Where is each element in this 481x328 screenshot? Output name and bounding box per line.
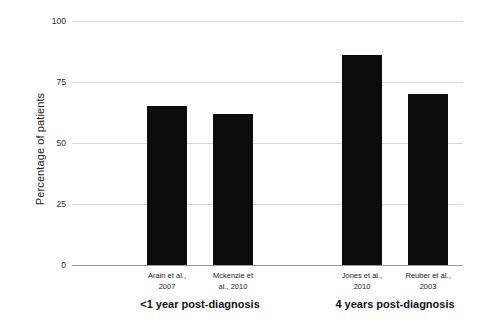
gridline-25: 25: [72, 204, 463, 205]
bar-mckenzie-2010: [213, 114, 253, 265]
x-tick-label-jones-line2: 2010: [324, 281, 400, 292]
group-label-4-years: 4 years post-diagnosis: [305, 298, 481, 310]
gridline-75: 75: [72, 82, 463, 83]
x-tick-label-arain: Arain et al., 2007: [129, 270, 205, 292]
bar-reuber-2003: [408, 94, 448, 265]
y-axis-title: Percentage of patients: [34, 29, 46, 269]
x-tick-label-jones: Jones et al., 2010: [324, 270, 400, 292]
x-tick-label-reuber-line2: 2003: [390, 281, 466, 292]
x-tick-label-mckenzie: Mckenzie et al., 2010: [195, 270, 271, 292]
y-tick-label-25: 25: [57, 199, 66, 209]
bar-arain-2007: [147, 106, 187, 265]
y-tick-label-0: 0: [61, 260, 66, 270]
gridline-50: 50: [72, 143, 463, 144]
bar-chart: Percentage of patients 100 75 50 25 0 Ar…: [0, 0, 481, 328]
x-tick-label-reuber-line1: Reuber et al.,: [390, 270, 466, 281]
plot-area: 100 75 50 25 0: [72, 21, 463, 265]
group-label-less-than-1-year: <1 year post-diagnosis: [110, 298, 290, 310]
x-tick-label-arain-line2: 2007: [129, 281, 205, 292]
x-tick-label-jones-line1: Jones et al.,: [324, 270, 400, 281]
x-tick-label-arain-line1: Arain et al.,: [129, 270, 205, 281]
x-tick-label-mckenzie-line2: al., 2010: [195, 281, 271, 292]
gridline-baseline-0: 0: [72, 265, 463, 266]
x-tick-label-reuber: Reuber et al., 2003: [390, 270, 466, 292]
y-tick-label-75: 75: [57, 77, 66, 87]
bar-jones-2010: [342, 55, 382, 265]
y-tick-label-100: 100: [52, 16, 66, 26]
x-tick-label-mckenzie-line1: Mckenzie et: [195, 270, 271, 281]
y-tick-label-50: 50: [57, 138, 66, 148]
gridline-100: 100: [72, 21, 463, 22]
